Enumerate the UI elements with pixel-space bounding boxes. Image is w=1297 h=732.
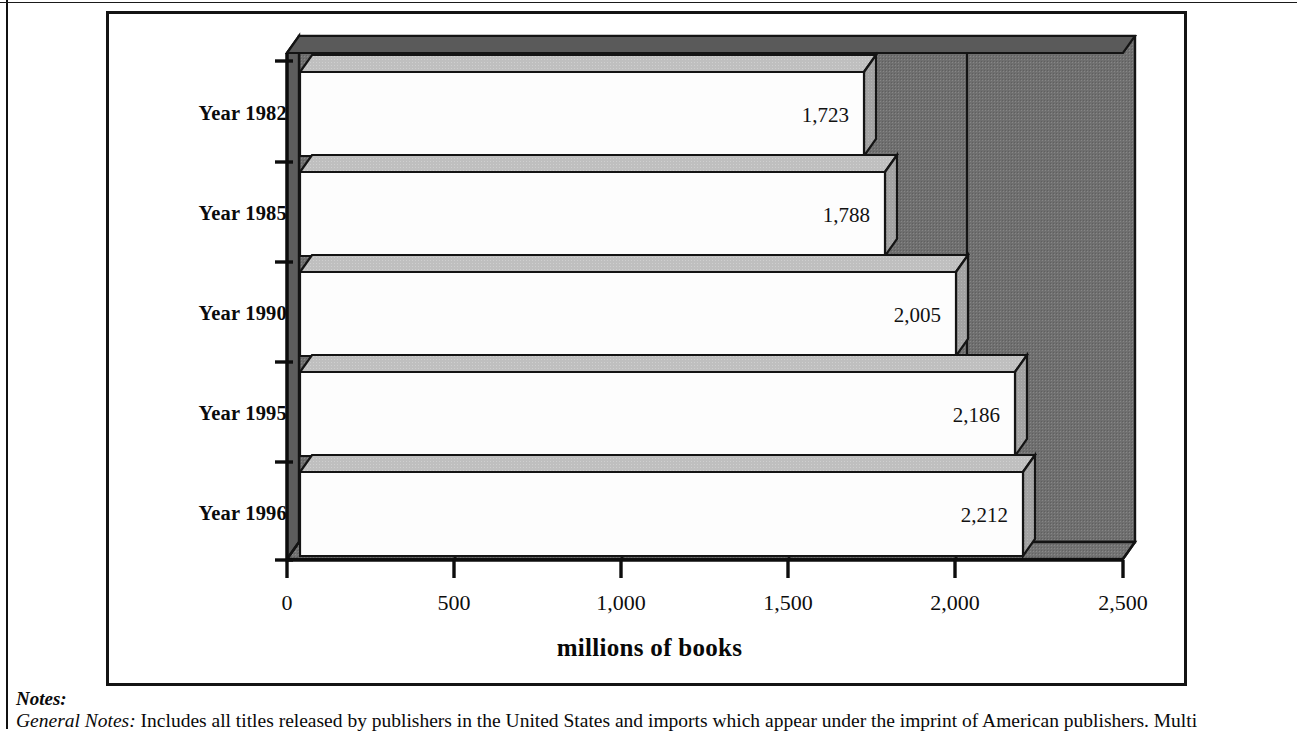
plot-left-wall: [287, 36, 299, 559]
category-label-year-1985: Year 1985: [87, 202, 287, 225]
x-tick-label-1500: 1,500: [728, 590, 848, 616]
three-d-bar-plot: Year 1982 Year 1985 Year 1990 Year 1995 …: [109, 14, 1190, 689]
bar-side-face: [1015, 355, 1027, 456]
x-tick-label-1000: 1,000: [561, 590, 681, 616]
bar-value-label-year-1985: 1,788: [710, 203, 870, 228]
bar-side-face: [864, 55, 876, 156]
bar-side-face: [885, 155, 897, 256]
x-axis-title: millions of books: [109, 634, 1190, 662]
page-left-rule: [6, 0, 8, 729]
x-axis-tick-labels: 0 500 1,000 1,500 2,000 2,500: [109, 590, 1190, 630]
notes-block: Notes: General Notes: Includes all title…: [16, 689, 1297, 732]
bar-top-face: [300, 355, 1027, 372]
category-label-year-1995: Year 1995: [87, 402, 287, 425]
wall-top-edge: [287, 36, 1135, 53]
bar-side-face: [1023, 455, 1035, 556]
notes-general-line: General Notes: Includes all titles relea…: [16, 710, 1297, 732]
bar-top-face: [300, 155, 897, 172]
x-axis: [287, 560, 1123, 578]
category-label-year-1982: Year 1982: [87, 102, 287, 125]
bar-value-label-year-1996: 2,212: [848, 503, 1008, 528]
notes-general-text: Includes all titles released by publishe…: [136, 710, 1197, 731]
bar-top-face: [300, 455, 1035, 472]
bar-value-label-year-1982: 1,723: [689, 103, 849, 128]
bar-side-face: [956, 255, 968, 356]
bar-value-label-year-1990: 2,005: [781, 303, 941, 328]
notes-heading: Notes:: [16, 689, 1297, 709]
notes-general-lead: General Notes:: [16, 710, 136, 731]
category-axis-labels: Year 1982 Year 1985 Year 1990 Year 1995 …: [109, 14, 287, 689]
page-top-rule: [0, 2, 1297, 3]
bar-top-face: [300, 255, 968, 272]
bar-value-label-year-1995: 2,186: [840, 403, 1000, 428]
x-tick-label-500: 500: [394, 590, 514, 616]
category-label-year-1990: Year 1990: [87, 302, 287, 325]
x-tick-label-2500: 2,500: [1063, 590, 1183, 616]
x-tick-label-2000: 2,000: [895, 590, 1015, 616]
category-label-year-1996: Year 1996: [87, 502, 287, 525]
bar-top-face: [300, 55, 876, 72]
chart-frame: Year 1982 Year 1985 Year 1990 Year 1995 …: [106, 11, 1187, 686]
x-tick-label-0: 0: [227, 590, 347, 616]
